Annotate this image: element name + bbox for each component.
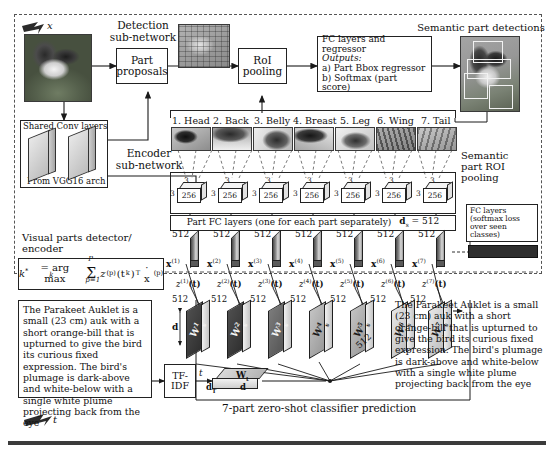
semantic-part-roi-pooling-label: Semantic part ROI pooling	[461, 150, 545, 184]
x-dim-label-1: 512	[172, 229, 189, 239]
fc-regressor-output-b: b) Softmax (part score)	[322, 74, 427, 93]
part-label-1: 1. Head	[172, 116, 210, 127]
cube-channels-label: 256	[341, 188, 365, 203]
part-crop-head	[171, 127, 211, 151]
x-vector-label-1: x(1)	[166, 258, 180, 269]
bird-description-right: The Parakeet Auklet is a small (23 cm) a…	[395, 299, 547, 390]
weight-matrix-w4: W4s	[309, 306, 335, 358]
input-bird-photo	[24, 34, 92, 102]
part-proposals-visualization	[178, 24, 230, 68]
part-vector-x-3	[272, 234, 285, 264]
bottom-rule	[8, 441, 546, 445]
part-label-4: 4. Breast	[293, 116, 337, 127]
part-fc-layers-label: Part FC layers (one for each part separa…	[187, 218, 392, 228]
part-crop-breast	[294, 127, 334, 151]
wt-dT-label: dT	[206, 383, 216, 394]
detection-bbox	[489, 85, 513, 109]
z-label-3: z(3)(t)	[258, 278, 282, 289]
cube-channels-label: 256	[423, 188, 447, 203]
weight-matrix-w3: W3s	[268, 306, 294, 358]
cube-channels-label: 256	[300, 188, 324, 203]
part-feature-cube-5: 3 3 256	[341, 182, 371, 204]
w-dim-label-3: 512	[250, 295, 266, 305]
z-label-6: z(6)(t)	[381, 278, 405, 289]
fc-layers-regressor-box[interactable]: FC layers and regressor Outputs: a) Part…	[317, 36, 432, 92]
tfidf-output-t-label: t	[199, 368, 203, 378]
x-dim-label-3: 512	[254, 229, 271, 239]
detection-bbox	[464, 73, 488, 99]
x-vector-label-6: x(6)	[371, 258, 385, 269]
z-label-4: z(4)(t)	[299, 278, 323, 289]
wt-d-label: d	[240, 383, 246, 393]
eq-lhs-sup: *	[25, 267, 28, 275]
part-vector-x-7	[436, 234, 449, 264]
part-crop-leg	[335, 127, 375, 151]
part-label-7: 7. Tail	[421, 116, 450, 127]
eq-term-x-sup: (p)	[154, 270, 163, 277]
part-vector-x-6	[395, 234, 408, 264]
prediction-equation-box: k* = arg max k P Σ p=1 z(p) (tk)T · x(p)	[18, 258, 164, 290]
tfidf-box[interactable]: TF- IDF	[164, 364, 196, 398]
eq-sigma-bottom: p=1	[85, 277, 100, 285]
w-dim-label-2: 512	[211, 295, 227, 305]
eq-argmax-sub: k	[49, 272, 53, 280]
figure-canvas: x Detection sub-network Part proposals R…	[0, 0, 554, 454]
detection-subnetwork-label: Detection sub-network	[104, 20, 182, 44]
w-dim-label-1: 512	[172, 295, 188, 305]
part-feature-cube-2: 3 3 256	[218, 182, 248, 204]
text-input-t-label: t	[53, 414, 57, 425]
z-label-1: z(1)(t)	[176, 278, 200, 289]
part-proposals-box[interactable]: Part proposals	[116, 48, 168, 84]
z-label-5: z(5)(t)	[340, 278, 364, 289]
part-feature-cube-1: 3 3 256	[177, 182, 207, 204]
part-crop-tail	[417, 127, 457, 151]
fc-softmax-seen-classes-box[interactable]: FC layers (softmax loss over seen classe…	[466, 204, 538, 242]
part-crop-back	[212, 127, 252, 151]
eq-sigma-top: P	[88, 256, 93, 264]
z-label-2: z(2)(t)	[217, 278, 241, 289]
x-vector-label-4: x(4)	[289, 258, 303, 269]
cube-channels-label: 256	[382, 188, 406, 203]
ds-label: ds = 512	[399, 217, 439, 228]
semantic-detections-photo	[460, 36, 520, 112]
w-dim-label-4: 512	[290, 295, 306, 305]
x-dim-label-7: 512	[418, 229, 435, 239]
cube-depth-label: 3	[334, 189, 339, 198]
semantic-part-detections-label: Semantic part detections	[417, 22, 545, 33]
eq-term-z-sup: (p)	[106, 270, 115, 277]
eq-term-t: (t	[117, 269, 125, 280]
fc-regressor-title: FC layers and regressor	[322, 35, 427, 54]
classifier-prediction-caption: 7-part zero-shot classifier prediction	[222, 403, 416, 415]
weight-matrix-w5: W5s	[350, 306, 376, 358]
eq-term-dot: · x	[141, 263, 153, 285]
encoder-subnetwork-label: Encoder sub-network	[113, 148, 185, 172]
part-feature-cube-7: 3 3 256	[423, 182, 453, 204]
eq-term-t-sub: k	[126, 270, 130, 277]
roi-pooling-box[interactable]: RoI pooling	[238, 48, 287, 84]
part-vector-x-4	[313, 234, 326, 264]
part-vector-x-5	[354, 234, 367, 264]
conv-slab	[28, 134, 62, 186]
cube-channels-label: 256	[259, 188, 283, 203]
eq-term-transpose: T	[136, 270, 140, 277]
x-dim-label-4: 512	[295, 229, 312, 239]
part-label-3: 3. Belly	[254, 116, 290, 127]
conv-slab	[68, 132, 102, 184]
x-vector-label-3: x(3)	[248, 258, 262, 269]
part-crop-belly	[253, 127, 293, 151]
part-label-2: 2. Back	[213, 116, 249, 127]
x-vector-label-7: x(7)	[412, 258, 426, 269]
part-crop-wing	[376, 127, 416, 151]
cube-depth-label: 3	[252, 189, 257, 198]
part-feature-cube-6: 3 3 256	[382, 182, 412, 204]
cube-depth-label: 3	[375, 189, 380, 198]
part-label-5: 5. Leg	[340, 116, 370, 127]
cube-depth-label: 3	[211, 189, 216, 198]
x-vector-label-5: x(5)	[330, 258, 344, 269]
x-dim-label-5: 512	[336, 229, 353, 239]
bird-description-left: The Parakeet Auklet is a small (23 cm) a…	[18, 300, 152, 398]
cube-channels-label: 256	[177, 188, 201, 203]
input-label-x: x	[47, 20, 53, 31]
x-vector-label-2: x(2)	[207, 258, 221, 269]
part-feature-cube-3: 3 3 256	[259, 182, 289, 204]
